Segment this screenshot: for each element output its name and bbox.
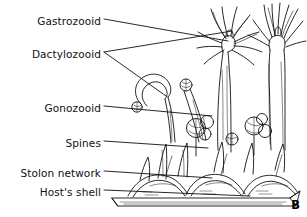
label-gastrozooid: Gastrozooid (37, 15, 101, 27)
leader-line-gastrozooid (104, 19, 228, 41)
stolon-network (128, 154, 298, 197)
figure-panel: Gastrozooid Dactylozooid Gonozooid Spine… (0, 0, 307, 217)
leader-lines (104, 19, 250, 196)
label-spines: Spines (66, 137, 101, 149)
label-stolon-network: Stolon network (20, 167, 101, 179)
leader-line-hosts_shell (104, 190, 250, 196)
leader-line-spines (104, 141, 208, 148)
panel-label: B (291, 198, 300, 212)
label-gonozooid: Gonozooid (45, 102, 101, 114)
gonozooid-cluster-right (245, 114, 272, 156)
label-hosts-shell: Host's shell (40, 186, 101, 198)
gonozooid-cluster-left (187, 116, 214, 157)
dactylozooid-upper (180, 79, 206, 142)
dactylozooid-curved (132, 74, 175, 143)
leader-line-dactylozooid (104, 31, 232, 52)
gastrozooid-right (248, 3, 306, 150)
gastrozooid-left (197, 7, 262, 152)
label-dactylozooid: Dactylozooid (32, 48, 101, 60)
hosts-shell (112, 191, 300, 206)
